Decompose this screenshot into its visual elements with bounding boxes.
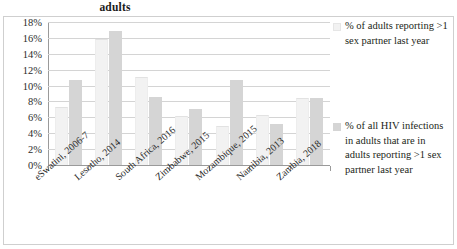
y-axis-tick-label: 8%: [28, 96, 42, 107]
chart-legend: % of adults reporting >1 sex partner las…: [333, 16, 453, 244]
chart-title: adults: [0, 0, 230, 15]
legend-entry-1[interactable]: % of all HIV infections in adults that a…: [333, 119, 451, 177]
x-axis-labels: eSwatini, 2006-7Lesotho, 2014South Afric…: [0, 166, 340, 246]
legend-label-0: % of adults reporting >1 sex partner las…: [345, 19, 449, 48]
y-axis-tick-label: 16%: [23, 32, 42, 43]
y-axis-tick-label: 14%: [23, 48, 42, 59]
y-axis-tick-label: 4%: [28, 128, 42, 139]
y-axis-tick-label: 6%: [28, 112, 42, 123]
y-axis-tick-label: 10%: [23, 80, 42, 91]
series-a-swatch-icon: [333, 23, 341, 31]
series-b-swatch-icon: [333, 123, 341, 131]
y-axis-tick-label: 18%: [23, 17, 42, 28]
legend-label-1: % of all HIV infections in adults that a…: [345, 119, 449, 177]
legend-entry-0[interactable]: % of adults reporting >1 sex partner las…: [333, 19, 451, 48]
y-axis-tick-label: 12%: [23, 64, 42, 75]
y-axis-labels: 18%16%14%12%10%8%6%4%2%0%: [6, 22, 42, 165]
y-axis-tick-label: 2%: [28, 144, 42, 155]
bar-chart: adults 18%16%14%12%10%8%6%4%2%0% eSwatin…: [0, 0, 457, 249]
